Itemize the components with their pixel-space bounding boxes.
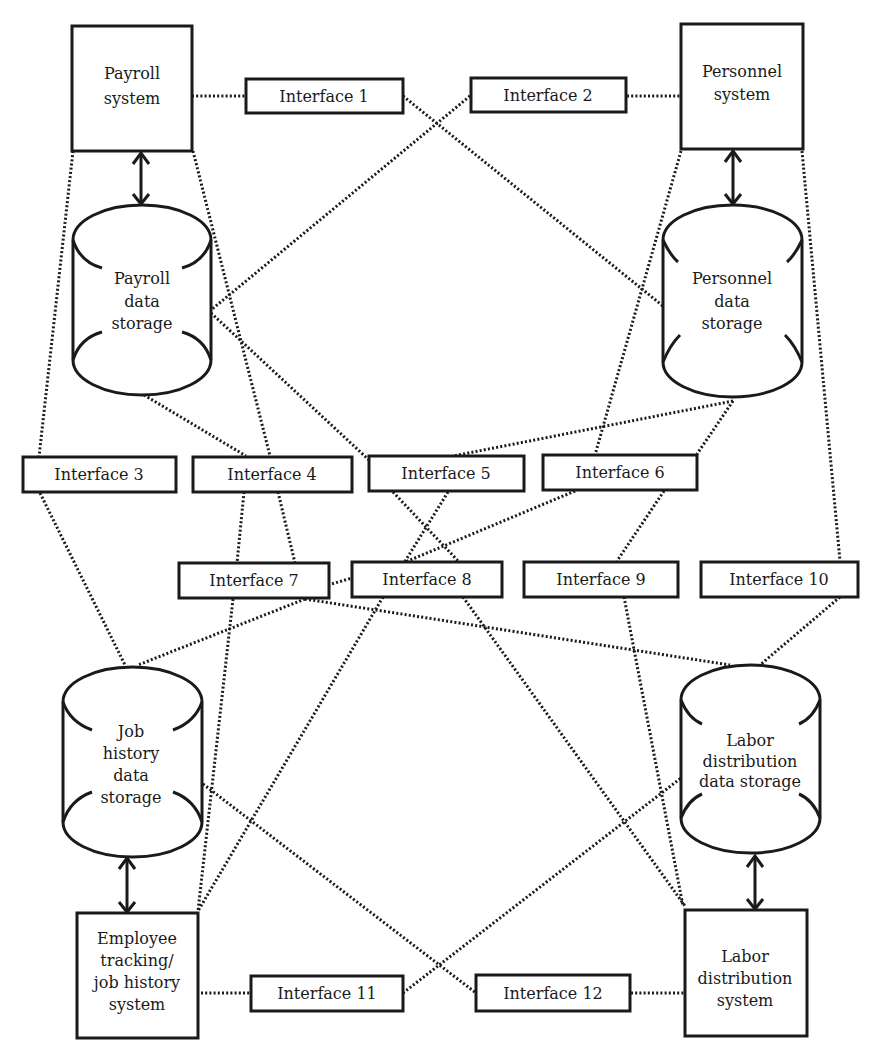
job-history-storage-label-3: data: [113, 766, 149, 785]
connector-personnel-storage-interface-6: [697, 401, 733, 454]
interface-10[interactable]: Interface 10: [701, 562, 858, 597]
connector-interface-3-job-history-storage: [40, 493, 125, 665]
job-history-storage-label-1: Job: [116, 722, 144, 741]
interface-8-label: Interface 8: [382, 570, 471, 589]
connector-payroll-storage-interface-4: [144, 395, 246, 456]
personnel-system-label-2: system: [714, 85, 771, 104]
interface-7[interactable]: Interface 7: [179, 563, 329, 598]
interface-5[interactable]: Interface 5: [369, 456, 524, 491]
arrow-job-history-storage-employee-system: [119, 858, 135, 912]
connector-interface-7-interface-8: [328, 578, 352, 585]
interface-12[interactable]: Interface 12: [476, 975, 630, 1011]
payroll-data-storage[interactable]: Payroll data storage: [73, 205, 211, 395]
labor-system-label-3: system: [717, 991, 774, 1010]
interface-6-label: Interface 6: [575, 463, 664, 482]
employee-system-label-3: job history: [92, 973, 180, 992]
employee-system-label-2: tracking/: [100, 951, 174, 970]
connector-interface-7-job-history-storage: [138, 599, 305, 665]
payroll-system-label-1: Payroll: [104, 64, 160, 83]
interface-10-label: Interface 10: [729, 570, 829, 589]
connector-interface-7-labor-storage: [305, 599, 730, 665]
connector-interface-6-interface-8: [403, 491, 575, 563]
personnel-data-storage[interactable]: Personnel data storage: [663, 205, 802, 397]
labor-system-label-1: Labor: [721, 947, 769, 966]
labor-system-label-2: distribution: [698, 969, 793, 988]
interface-2[interactable]: Interface 2: [471, 78, 626, 112]
interface-11[interactable]: Interface 11: [251, 976, 403, 1011]
personnel-system[interactable]: Personnel system: [681, 24, 803, 149]
job-history-storage-label-2: history: [103, 744, 159, 763]
interface-9[interactable]: Interface 9: [524, 562, 678, 597]
job-history-storage-label-4: storage: [100, 788, 161, 807]
personnel-storage-label-1: Personnel: [692, 269, 772, 288]
system-boxes: Payroll system Personnel system Employee…: [72, 24, 807, 1038]
payroll-system[interactable]: Payroll system: [72, 26, 192, 151]
interface-7-label: Interface 7: [209, 571, 298, 590]
connector-interface-1-personnel-data-storage: [403, 96, 663, 306]
interface-12-label: Interface 12: [503, 984, 603, 1003]
arrow-personnel-system-storage: [725, 151, 741, 204]
interface-3-label: Interface 3: [54, 465, 143, 484]
interface-4[interactable]: Interface 4: [193, 457, 352, 492]
connector-personnel-system-interface-10: [802, 151, 840, 561]
personnel-system-label-1: Personnel: [702, 62, 782, 81]
employee-system-label-1: Employee: [97, 929, 177, 948]
interface-2-label: Interface 2: [503, 86, 592, 105]
payroll-storage-label-3: storage: [111, 314, 172, 333]
interface-9-label: Interface 9: [556, 570, 645, 589]
interface-1-label: Interface 1: [279, 87, 368, 106]
data-storage-cylinders: Payroll data storage Personnel data stor…: [63, 205, 820, 857]
arrow-labor-storage-labor-system: [747, 856, 763, 909]
connector-interface-10-labor-storage: [760, 597, 840, 665]
connector-payroll-storage-interface-5: [211, 313, 369, 460]
connector-interface-11-labor-storage: [403, 778, 681, 993]
connector-interface-4-interface-7-a: [237, 492, 244, 563]
interface-3[interactable]: Interface 3: [23, 457, 176, 492]
job-history-data-storage[interactable]: Job history data storage: [63, 667, 202, 857]
payroll-system-label-2: system: [104, 89, 161, 108]
payroll-storage-label-1: Payroll: [114, 269, 170, 288]
connector-job-history-storage-interface-12: [203, 784, 476, 993]
labor-storage-label-1: Labor: [726, 731, 774, 750]
personnel-storage-label-2: data: [714, 292, 750, 311]
connector-interface-4-interface-7-b: [278, 492, 295, 563]
interface-5-label: Interface 5: [401, 464, 490, 483]
interface-11-label: Interface 11: [277, 984, 377, 1003]
employee-system-label-4: system: [109, 995, 166, 1014]
connector-interface-2-payroll-data-storage: [211, 96, 470, 310]
interface-8[interactable]: Interface 8: [352, 562, 502, 597]
connector-personnel-storage-interface-5: [453, 401, 733, 456]
system-interface-diagram: Payroll system Personnel system Employee…: [0, 0, 874, 1054]
payroll-storage-label-2: data: [124, 292, 160, 311]
employee-tracking-system[interactable]: Employee tracking/ job history system: [77, 913, 198, 1038]
labor-distribution-data-storage[interactable]: Labor distribution data storage: [681, 665, 820, 853]
connector-payroll-system-interface-3: [39, 151, 73, 457]
interface-1[interactable]: Interface 1: [246, 79, 403, 113]
labor-storage-label-2: distribution: [703, 752, 798, 771]
connector-interface-6-interface-9: [617, 491, 664, 561]
interface-4-label: Interface 4: [227, 465, 316, 484]
labor-distribution-system[interactable]: Labor distribution system: [685, 910, 807, 1036]
personnel-storage-label-3: storage: [701, 314, 762, 333]
labor-storage-label-3: data storage: [699, 772, 801, 791]
interface-6[interactable]: Interface 6: [543, 455, 697, 490]
connector-interface-8-labor-system: [463, 597, 685, 906]
arrow-payroll-system-storage: [133, 153, 149, 204]
connector-interface-8-employee-system: [198, 597, 383, 911]
